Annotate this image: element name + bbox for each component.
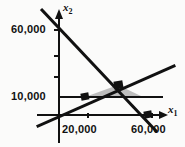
vertex-marker-right	[143, 110, 152, 118]
x-axis-title-subscript: 1	[174, 109, 178, 118]
x-tick-label-20000: 20,000	[62, 123, 97, 135]
y-axis-arrowhead	[55, 9, 63, 19]
x-axis-arrowhead	[159, 111, 168, 119]
x-axis-title: x1	[168, 103, 178, 118]
vertex-marker-left	[80, 92, 89, 100]
vertex-marker-apex	[113, 80, 123, 89]
linear-programming-graph: 60,000 10,000 20,000 60,000 x2 x1	[0, 0, 185, 147]
y-axis-title-subscript: 2	[69, 7, 73, 16]
x-tick-label-60000: 60,000	[131, 123, 166, 135]
y-axis-title: x2	[63, 1, 73, 16]
y-tick-label-10000: 10,000	[11, 90, 46, 102]
y-tick-label-60000: 60,000	[11, 23, 46, 35]
